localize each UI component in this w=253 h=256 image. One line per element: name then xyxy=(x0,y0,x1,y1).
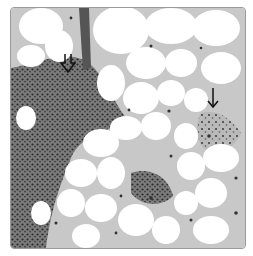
tissue-image xyxy=(11,8,245,248)
thin-arrow-icon xyxy=(207,87,219,109)
micrograph-frame xyxy=(10,7,246,249)
open-arrow-icon xyxy=(60,53,76,73)
